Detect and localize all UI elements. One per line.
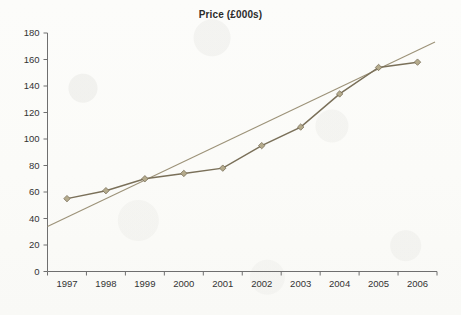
- x-axis-tick-labels: 1997199819992000200120022003200420052006: [56, 278, 428, 289]
- price-series-markers: [64, 59, 421, 202]
- data-point-marker: [220, 165, 226, 171]
- y-tick-label: 140: [24, 80, 40, 91]
- line-chart: 020406080100120140160180 199719981999200…: [0, 0, 461, 315]
- x-tick-label: 2004: [329, 278, 350, 289]
- x-tick-label: 2002: [251, 278, 272, 289]
- y-tick-label: 100: [24, 133, 40, 144]
- data-point-marker: [181, 170, 187, 176]
- y-tick-label: 60: [29, 186, 40, 197]
- y-tick-label: 80: [29, 160, 40, 171]
- x-tick-label: 1998: [95, 278, 116, 289]
- data-point-marker: [64, 195, 70, 201]
- data-point-marker: [259, 142, 265, 148]
- x-tick-label: 2006: [407, 278, 428, 289]
- x-tick-label: 1997: [56, 278, 77, 289]
- x-tick-label: 2001: [212, 278, 233, 289]
- x-axis-ticks: [48, 272, 438, 276]
- y-tick-label: 20: [29, 239, 40, 250]
- data-point-marker: [103, 187, 109, 193]
- chart-page: Price (£000s) 020406080100120140160180 1…: [0, 0, 461, 315]
- y-axis-tick-labels: 020406080100120140160180: [24, 27, 40, 277]
- x-tick-label: 1999: [134, 278, 155, 289]
- x-tick-label: 2000: [173, 278, 194, 289]
- trendline-series: [48, 42, 436, 227]
- y-tick-label: 120: [24, 107, 40, 118]
- price-series-line: [67, 62, 418, 198]
- y-tick-label: 180: [24, 27, 40, 38]
- y-axis-ticks: [44, 33, 48, 272]
- x-tick-label: 2003: [290, 278, 311, 289]
- y-tick-label: 160: [24, 54, 40, 65]
- x-tick-label: 2005: [368, 278, 389, 289]
- y-tick-label: 0: [34, 266, 39, 277]
- y-tick-label: 40: [29, 213, 40, 224]
- data-point-marker: [414, 59, 420, 65]
